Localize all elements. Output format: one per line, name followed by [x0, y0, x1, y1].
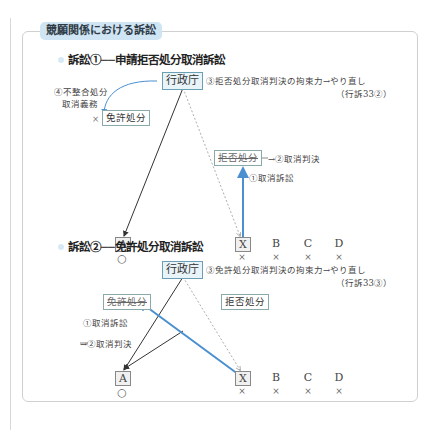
suit2-agency-box: 行政庁 [162, 261, 203, 279]
suit1-party-c: C [301, 237, 315, 250]
suit1-judgment-label: →②取消判決 [268, 152, 320, 164]
suit1-cross-mark: × [92, 114, 99, 124]
suit2-party-d: D [332, 371, 346, 384]
suit1-mark-x: × [235, 252, 249, 262]
suit2-party-x: X [235, 371, 251, 386]
suit2-heading: 訴訟②──免許処分取消訴訟 [68, 238, 203, 254]
suit2-mark-x: × [235, 386, 249, 396]
suit1-agency-box: 行政庁 [162, 72, 203, 90]
suit1-license-disposition: 免許処分 [102, 110, 150, 126]
suit2-binding-ref: （行訴33③） [336, 276, 392, 288]
suit1-rejection-disposition: 拒否処分 [214, 150, 262, 166]
heading-bullet-icon [58, 244, 64, 250]
suit1-mark-d: × [332, 252, 346, 262]
suit1-lawsuit-label: ①取消訴訟 [249, 171, 294, 183]
suit2-rejection-disposition: 拒否処分 [221, 294, 269, 310]
suit2-party-a: A [115, 371, 131, 386]
suit1-duty-note-line2: 取消義務 [62, 97, 98, 109]
suit2-party-c: C [301, 371, 315, 384]
suit1-binding-note: ③拒否処分取消判決の拘束力→やり直し [206, 74, 366, 86]
suit2-mark-c: × [301, 386, 315, 396]
suit1-party-d: D [332, 237, 346, 250]
suit2-party-b: B [269, 371, 283, 384]
suit2-judgment-label: →②取消判決 [80, 337, 132, 349]
suit1-mark-c: × [301, 252, 315, 262]
suit1-party-b: B [269, 237, 283, 250]
suit1-mark-b: × [269, 252, 283, 262]
suit2-mark-b: × [269, 386, 283, 396]
suit1-duty-note-line1: ④不整合処分 [54, 85, 108, 97]
suit1-party-x: X [235, 237, 251, 252]
suit1-heading: 訴訟①──申請拒否処分取消訴訟 [68, 51, 225, 67]
suit2-mark-d: × [332, 386, 346, 396]
suit2-mark-a: ○ [115, 386, 129, 399]
heading-bullet-icon [58, 57, 64, 63]
suit2-license-disposition: 免許処分 [103, 294, 151, 310]
suit2-lawsuit-label: ①取消訴訟 [83, 316, 128, 328]
suit1-binding-ref: （行訴33②） [336, 87, 392, 99]
suit2-binding-note: ③免許処分取消判決の拘束力→やり直し [206, 263, 366, 275]
